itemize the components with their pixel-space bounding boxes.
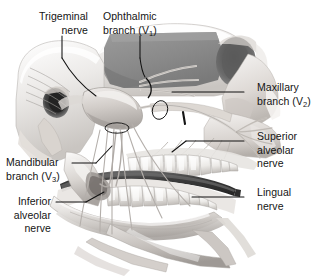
label-trigeminal-line2: nerve	[6, 24, 88, 38]
label-mandibular-sub: 3	[52, 175, 56, 184]
label-superior-alveolar-nerve: Superior alveolar nerve	[257, 130, 297, 171]
label-mandibular-post: )	[56, 170, 60, 182]
label-ophthalmic-sub: 1	[149, 29, 153, 38]
label-inferior-alveolar-line2: alveolar	[0, 209, 51, 223]
label-ophthalmic-line1: Ophthalmic	[103, 10, 157, 24]
label-lingual-line2: nerve	[257, 200, 291, 214]
label-mandibular-branch: Mandibular branch (V3)	[6, 156, 60, 183]
label-mandibular-line2: branch (V3)	[6, 170, 60, 184]
label-trigeminal-line1: Trigeminal	[6, 10, 88, 24]
label-maxillary-line2: branch (V2)	[257, 95, 311, 109]
label-lingual-line1: Lingual	[257, 186, 291, 200]
label-superior-alveolar-line3: nerve	[257, 157, 297, 171]
label-superior-alveolar-line2: alveolar	[257, 144, 297, 158]
anatomy-figure: Trigeminal nerve Ophthalmic branch (V1) …	[0, 0, 315, 276]
label-superior-alveolar-line1: Superior	[257, 130, 297, 144]
label-inferior-alveolar-line1: Inferior	[0, 195, 51, 209]
label-mandibular-line1: Mandibular	[6, 156, 60, 170]
label-trigeminal-nerve: Trigeminal nerve	[6, 10, 88, 37]
label-ophthalmic-post: )	[153, 24, 157, 36]
label-maxillary-branch: Maxillary branch (V2)	[257, 81, 311, 108]
label-lingual-nerve: Lingual nerve	[257, 186, 291, 213]
label-mandibular-pre: branch (V	[6, 170, 52, 182]
label-inferior-alveolar-line3: nerve	[0, 222, 51, 236]
label-maxillary-post: )	[307, 95, 311, 107]
label-ophthalmic-pre: branch (V	[103, 24, 149, 36]
label-ophthalmic-branch: Ophthalmic branch (V1)	[103, 10, 157, 37]
cranial-cavity	[104, 32, 222, 88]
label-ophthalmic-line2: branch (V1)	[103, 24, 157, 38]
label-inferior-alveolar-nerve: Inferior alveolar nerve	[0, 195, 51, 236]
label-maxillary-line1: Maxillary	[257, 81, 311, 95]
label-maxillary-sub: 2	[303, 100, 307, 109]
label-maxillary-pre: branch (V	[257, 95, 303, 107]
